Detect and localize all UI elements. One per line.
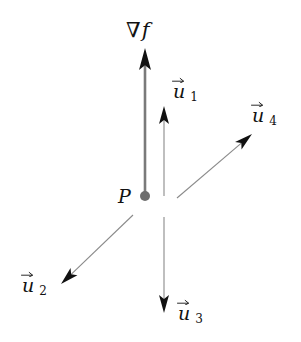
vector-u2-label: u2: [22, 276, 47, 297]
arrow-heads-group: [61, 48, 252, 313]
vector-u4-label: u4: [252, 106, 277, 127]
vector-u4-subscript: 4: [269, 115, 277, 127]
vector-u4-arrow-shaft: [177, 143, 241, 198]
vector-u3-label: u3: [178, 304, 203, 325]
vector-u2-subscript: 2: [39, 285, 47, 297]
gradient-function-label: f: [142, 18, 150, 42]
vector-u1-subscript: 1: [190, 91, 198, 103]
vector-u4-base: u: [252, 106, 264, 125]
vector-u1-label: u1: [173, 82, 198, 103]
vector-u3-subscript: 3: [195, 313, 203, 325]
vector-u1-base: u: [173, 82, 185, 101]
vector-u3-base: u: [178, 304, 190, 323]
nabla-icon: ∇: [126, 18, 141, 42]
vector-u2-base: u: [22, 276, 34, 295]
arrow-shafts-group: [71, 65, 241, 299]
vector-u4-arrow-head: [235, 134, 252, 149]
gradient-label: ∇f: [126, 20, 149, 41]
diagram-canvas: P ∇f u1u2u3u4: [0, 0, 301, 342]
point-p-dot: [140, 191, 150, 201]
vector-u2-arrow-shaft: [71, 215, 133, 274]
point-p-label: P: [118, 187, 131, 206]
